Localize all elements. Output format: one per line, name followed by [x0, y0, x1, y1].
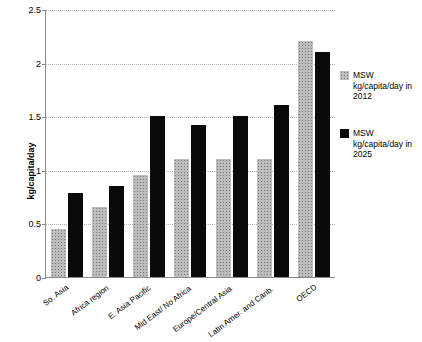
- y-axis-title: kg/capita/day: [26, 142, 36, 199]
- bar: [150, 116, 165, 277]
- legend-swatch-2025: [340, 129, 349, 138]
- bar: [109, 186, 124, 277]
- x-tick-label: So. Asia: [41, 283, 70, 308]
- y-tick-label: 0: [36, 273, 41, 283]
- bar: [298, 41, 313, 277]
- bar-group: [133, 10, 165, 277]
- legend-label-2025: MSW kg/capita/day in 2025: [353, 128, 420, 160]
- y-tick-label: 2: [36, 59, 41, 69]
- bar: [216, 159, 231, 277]
- bar-group: [92, 10, 124, 277]
- bar-chart: kg/capita/day 00.511.522.5 So. AsiaAfric…: [0, 0, 422, 342]
- bar: [191, 125, 206, 277]
- legend-label-2012: MSW kg/capita/day in 2012: [353, 70, 420, 102]
- y-tick-label: 2.5: [28, 5, 41, 15]
- bar: [233, 116, 248, 277]
- legend-swatch-2012: [340, 71, 349, 80]
- bar-group: [257, 10, 289, 277]
- bar-group: [298, 10, 330, 277]
- x-tick-label: OECD: [295, 283, 319, 304]
- legend-item-2012: MSW kg/capita/day in 2012: [340, 70, 420, 102]
- x-axis-labels: So. AsiaAfrica regionE. Asia PacificMid …: [45, 282, 335, 338]
- bar: [92, 207, 107, 277]
- bar: [274, 105, 289, 277]
- y-tick-mark: [42, 278, 46, 279]
- bar: [174, 159, 189, 277]
- bar: [68, 193, 83, 277]
- bar-group: [51, 10, 83, 277]
- plot-area: 00.511.522.5: [45, 10, 335, 278]
- chart-legend: MSW kg/capita/day in 2012 MSW kg/capita/…: [340, 70, 420, 186]
- bar: [133, 175, 148, 277]
- legend-item-2025: MSW kg/capita/day in 2025: [340, 128, 420, 160]
- bar: [51, 229, 66, 277]
- y-tick-label: 1: [36, 166, 41, 176]
- bar: [315, 52, 330, 277]
- bar-group: [216, 10, 248, 277]
- bar: [257, 159, 272, 277]
- y-tick-label: 0.5: [28, 219, 41, 229]
- y-tick-label: 1.5: [28, 112, 41, 122]
- bar-groups: [46, 10, 335, 277]
- bar-group: [174, 10, 206, 277]
- x-label-cell: OECD: [294, 282, 334, 338]
- x-label-cell: Latin Amer. and Carib.: [253, 282, 293, 338]
